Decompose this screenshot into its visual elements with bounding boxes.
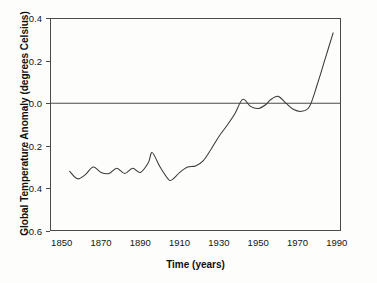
x-tick-label-6: 1970	[278, 237, 318, 248]
x-tick-label-5: 1950	[238, 237, 278, 248]
x-tick-label-1: 1870	[81, 237, 121, 248]
temperature-anomaly-line	[70, 33, 333, 181]
x-tick-label-4: 1930	[199, 237, 239, 248]
x-tick-label-2: 1890	[120, 237, 160, 248]
x-tick-label-3: 1910	[160, 237, 200, 248]
temperature-anomaly-chart: Global Temperature Anomaly (degrees Cels…	[0, 0, 377, 283]
x-tick-label-0: 1850	[42, 237, 82, 248]
x-tick-label-7: 1990	[317, 237, 357, 248]
x-axis-title: Time (years)	[50, 259, 341, 270]
